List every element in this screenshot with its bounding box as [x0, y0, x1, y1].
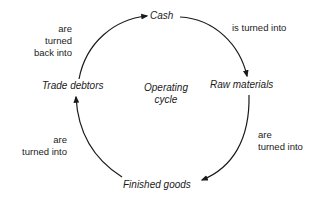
edge-label-finished-to-debtors: are turned into [10, 134, 67, 158]
node-trade-debtors: Trade debtors [42, 80, 104, 92]
operating-cycle-diagram: Cash Raw materials Finished goods Trade … [0, 0, 323, 198]
node-finished-goods: Finished goods [123, 179, 191, 191]
center-label-line1: Operating [140, 82, 192, 94]
node-cash: Cash [150, 10, 173, 22]
arrow-raw-materials-to-finished-goods [202, 95, 249, 180]
edge-label-debtors-to-cash: are turned back into [10, 23, 72, 59]
center-label-line2: cycle [140, 94, 192, 106]
node-raw-materials: Raw materials [210, 79, 273, 91]
arrow-trade-debtors-to-cash [79, 16, 147, 79]
arrow-finished-goods-to-trade-debtors [76, 97, 122, 177]
edge-label-cash-to-raw: is turned into [232, 22, 286, 34]
center-label: Operating cycle [140, 82, 192, 106]
edge-label-raw-to-finished: are turned into [258, 129, 303, 153]
